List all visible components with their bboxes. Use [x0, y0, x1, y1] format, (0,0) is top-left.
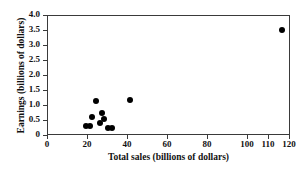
plot-data-area	[48, 16, 289, 134]
x-axis-tick-label: 0	[27, 139, 67, 149]
y-axis-tick	[43, 75, 47, 76]
x-axis-tick-label: 60	[147, 139, 187, 149]
y-axis-tick-label: 0	[0, 129, 40, 139]
data-point	[99, 110, 105, 116]
y-axis-tick	[43, 15, 47, 16]
y-axis-tick-label: 4.0	[0, 9, 40, 19]
x-axis-tick-label: 40	[107, 139, 147, 149]
y-axis-tick	[43, 135, 47, 136]
y-axis-tick-label: 2.5	[0, 54, 40, 64]
y-axis-tick	[43, 60, 47, 61]
y-axis-tick	[43, 105, 47, 106]
y-axis-tick-label: 3.0	[0, 39, 40, 49]
data-point	[127, 97, 133, 103]
data-point	[87, 123, 93, 129]
x-axis-label: Total sales (billions of dollars)	[47, 152, 290, 162]
data-point	[89, 114, 95, 120]
plot-frame	[47, 15, 290, 135]
y-axis-tick-label: 0.5	[0, 114, 40, 124]
y-axis-tick-label: 3.5	[0, 24, 40, 34]
data-point	[93, 98, 99, 104]
data-point	[109, 125, 115, 131]
data-point	[279, 27, 285, 33]
x-axis-tick-label: 80	[187, 139, 227, 149]
y-axis-tick-label: 2.0	[0, 69, 40, 79]
y-axis-tick	[43, 90, 47, 91]
y-axis-tick-label: 1.5	[0, 84, 40, 94]
y-axis-tick	[43, 30, 47, 31]
data-point	[101, 116, 107, 122]
y-axis-tick	[43, 120, 47, 121]
x-axis-tick-label: 120	[269, 139, 306, 149]
y-axis-tick	[43, 45, 47, 46]
y-axis-tick-label: 1.0	[0, 99, 40, 109]
scatter-plot-figure: Earnings (billions of dollars) 020406080…	[0, 0, 306, 172]
x-axis-tick-label: 20	[67, 139, 107, 149]
